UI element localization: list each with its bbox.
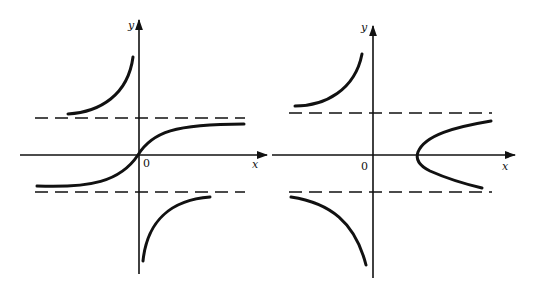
upper-left-branch bbox=[295, 54, 362, 106]
origin-label: 0 bbox=[361, 160, 368, 173]
right-panel: y 0 x bbox=[272, 21, 515, 278]
left-panel: y 0 x bbox=[20, 19, 267, 274]
origin-label: 0 bbox=[143, 157, 150, 170]
x-axis-label: x bbox=[252, 158, 259, 171]
lower-left-branch bbox=[291, 197, 366, 265]
y-axis-label: y bbox=[127, 19, 135, 32]
x-axis-label: x bbox=[502, 160, 509, 173]
lower-right-branch bbox=[143, 197, 210, 261]
figure: y 0 x y 0 x bbox=[0, 0, 535, 299]
y-axis-label: y bbox=[360, 21, 368, 34]
upper-left-branch bbox=[68, 57, 133, 114]
